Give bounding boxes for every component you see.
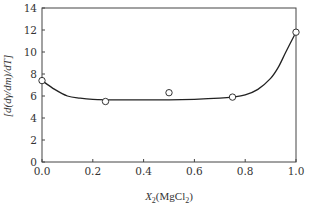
x-tick-label: 1.0 <box>288 165 305 177</box>
data-points-group <box>39 29 299 105</box>
plot-frame <box>42 8 296 162</box>
y-tick-label: 8 <box>30 68 37 80</box>
data-point <box>293 29 299 35</box>
y-tick-label: 0 <box>30 156 37 168</box>
data-point <box>229 94 235 100</box>
data-point <box>39 77 45 83</box>
axes <box>42 8 296 162</box>
y-tick-label: 6 <box>30 90 37 102</box>
chart: 0.00.20.40.60.81.0 02468101214 X2(MgCl2)… <box>0 0 315 208</box>
data-point <box>166 90 172 96</box>
y-tick-label: 2 <box>30 134 37 146</box>
x-tick-label: 0.8 <box>237 165 254 177</box>
y-tick-label: 12 <box>24 24 37 36</box>
x-tick-label: 0.2 <box>84 165 101 177</box>
y-axis-label: [d(dγ/dm)/dT] <box>1 55 14 117</box>
y-tick-label: 4 <box>30 112 37 124</box>
x-axis-label: X2(MgCl2) <box>144 190 193 205</box>
y-tick-label: 14 <box>24 2 38 14</box>
y-tick-label: 10 <box>24 46 37 58</box>
x-tick-label: 0.4 <box>135 165 152 177</box>
data-point <box>102 98 108 104</box>
x-tick-label: 0.6 <box>186 165 203 177</box>
